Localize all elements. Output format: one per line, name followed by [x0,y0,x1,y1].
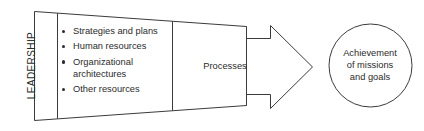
list-item-label: Human resources [73,41,146,51]
processes-label: Processes [185,61,265,72]
outcome-line-3: and goals [330,71,410,83]
bullet-dot-icon [62,45,65,48]
list-item: Strategies and plans [62,26,174,38]
bullet-dot-icon [62,60,65,63]
list-item-label: Strategies and plans [73,26,158,36]
list-item: Organizational architectures [62,57,174,81]
list-item-label: Organizational architectures [73,57,133,79]
list-item: Human resources [62,41,174,53]
leadership-label: LEADERSHIP [20,0,44,131]
list-item-label: Other resources [73,84,140,94]
bullet-dot-icon [62,88,65,91]
outcome-line-1: Achievement [330,47,410,59]
process-flow-diagram: LEADERSHIP Strategies and plans Human re… [0,0,424,131]
outcome-circle-label: Achievement of missions and goals [330,47,410,83]
inputs-bullet-list: Strategies and plans Human resources Org… [62,26,174,99]
list-item: Other resources [62,84,174,96]
bullet-dot-icon [62,30,65,33]
outcome-line-2: of missions [330,59,410,71]
